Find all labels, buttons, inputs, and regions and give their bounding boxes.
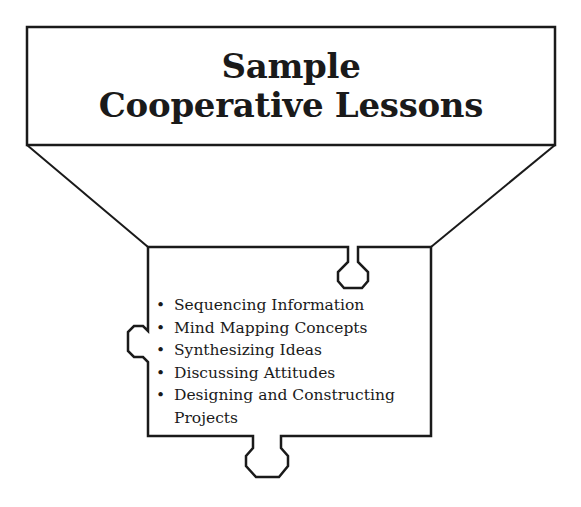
lesson-label: Synthesizing Ideas [174,341,322,359]
title-line-2: Cooperative Lessons [99,86,483,125]
title-line-1: Sample [221,47,360,86]
lesson-label: Sequencing Information [174,296,364,314]
diagram-canvas: Sample Cooperative Lessons •Sequencing I… [0,0,581,507]
bullet-icon: • [156,294,165,317]
page-title: Sample Cooperative Lessons [28,28,554,144]
funnel-left-line [27,145,148,247]
lesson-list: •Sequencing Information •Mind Mapping Co… [156,294,436,429]
lesson-label: Designing and Constructing Projects [174,386,395,427]
bullet-icon: • [156,362,165,385]
list-item: •Discussing Attitudes [156,362,436,385]
bullet-icon: • [156,317,165,340]
funnel-right-line [431,145,555,247]
list-item: •Sequencing Information [156,294,436,317]
list-item: •Mind Mapping Concepts [156,317,436,340]
list-item: •Designing and Constructing Projects [156,384,436,429]
list-item: •Synthesizing Ideas [156,339,436,362]
lesson-label: Mind Mapping Concepts [174,319,368,337]
bullet-icon: • [156,339,165,362]
bullet-icon: • [156,384,165,407]
lesson-label: Discussing Attitudes [174,364,335,382]
